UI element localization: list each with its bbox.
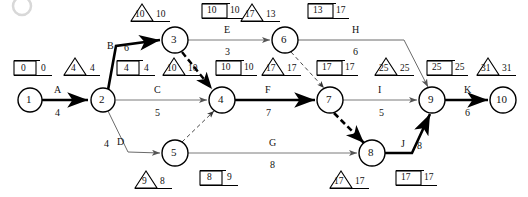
diagram-svg	[0, 0, 528, 197]
activity-duration-H: 6	[353, 46, 358, 57]
node-label-10: 10	[496, 93, 507, 105]
box-left-value-node-2: 4	[124, 63, 129, 73]
box-left-value-node-9: 25	[432, 62, 442, 72]
box-left-value-node-6: 13	[313, 5, 323, 15]
box-right-value-node-6: 17	[336, 5, 346, 15]
triangle-value-node-8: 17	[334, 176, 344, 186]
activity-duration-K: 6	[465, 107, 470, 118]
activity-label-B: B	[107, 40, 114, 51]
box-right-value-node-5: 9	[227, 172, 232, 182]
box-right-value-node-7: 17	[345, 62, 355, 72]
dummy-edge-7-8	[334, 113, 364, 143]
activity-label-H: H	[352, 24, 359, 35]
box-right-value-node-9: 25	[455, 62, 465, 72]
triangle-right-value-node-7: 17	[287, 63, 297, 73]
triangle-right-value-node-8: 17	[355, 176, 365, 186]
triangle-value-node-5: 9	[142, 176, 147, 186]
activity-label-I: I	[378, 84, 381, 95]
box-left-value-node-7: 17	[322, 62, 332, 72]
box-left-value-node-3: 10	[207, 5, 217, 15]
node-label-1: 1	[26, 93, 32, 105]
box-left-value-node-4: 10	[221, 62, 231, 72]
activity-label-E: E	[224, 24, 230, 35]
activity-label-F: F	[265, 84, 271, 95]
activity-duration-J: 8	[417, 140, 422, 151]
node-label-3: 3	[171, 33, 177, 45]
activity-label-C: C	[154, 84, 161, 95]
activity-label-K: K	[464, 84, 471, 95]
activity-duration-A: 4	[55, 107, 60, 118]
edge-J-8-9	[385, 114, 430, 153]
node-label-9: 9	[428, 93, 434, 105]
activity-duration-E: 3	[225, 46, 230, 57]
node-label-7: 7	[326, 93, 332, 105]
activity-label-A: A	[54, 84, 61, 95]
triangle-value-node-9: 25	[379, 63, 389, 73]
activity-label-G: G	[269, 137, 276, 148]
activity-label-D: D	[117, 136, 124, 147]
corner-badge-icon	[13, 0, 31, 15]
triangle-value-node-4: 10	[167, 63, 177, 73]
node-label-5: 5	[171, 146, 177, 158]
box-right-value-node-4: 10	[244, 62, 254, 72]
node-label-6: 6	[281, 33, 287, 45]
activity-duration-F: 7	[266, 107, 271, 118]
node-label-8: 8	[368, 146, 374, 158]
edge-D-2-5	[108, 111, 160, 153]
activity-duration-I: 5	[379, 107, 384, 118]
activity-label-J: J	[401, 138, 405, 149]
triangle-value-node-6: 17	[245, 9, 255, 19]
box-left-value-node-8: 17	[401, 172, 411, 182]
triangle-value-node-2: 4	[71, 63, 76, 73]
box-left-value-node-5: 8	[207, 172, 212, 182]
activity-duration-C: 5	[155, 107, 160, 118]
triangle-right-value-node-6: 13	[266, 9, 276, 19]
activity-duration-B: 6	[124, 42, 129, 53]
triangle-right-value-node-10: 31	[502, 63, 512, 73]
activity-duration-G: 8	[270, 159, 275, 170]
box-left-value-node-1: 0	[21, 63, 26, 73]
triangle-value-node-10: 31	[481, 63, 491, 73]
box-right-value-node-2: 4	[144, 63, 149, 73]
triangle-right-value-node-5: 8	[160, 176, 165, 186]
triangle-right-value-node-4: 10	[188, 63, 198, 73]
node-label-2: 2	[99, 93, 105, 105]
triangle-right-value-node-3: 10	[156, 9, 166, 19]
box-right-value-node-8: 17	[424, 172, 434, 182]
box-right-value-node-3: 10	[230, 5, 240, 15]
triangle-value-node-7: 17	[266, 63, 276, 73]
dummy-edge-5-4	[182, 111, 214, 142]
triangle-right-value-node-2: 4	[90, 63, 95, 73]
triangle-value-node-3: 10	[135, 9, 145, 19]
node-label-4: 4	[218, 93, 224, 105]
activity-duration-D: 4	[104, 138, 109, 149]
box-right-value-node-1: 0	[41, 63, 46, 73]
triangle-right-value-node-9: 25	[400, 63, 410, 73]
network-diagram-canvas	[0, 0, 528, 197]
